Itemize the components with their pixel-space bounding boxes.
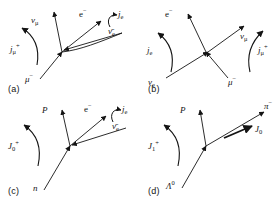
label-neutron: n	[33, 184, 38, 193]
label-electron: e−	[79, 10, 87, 19]
line-proton-out	[200, 110, 206, 146]
panel-a: νμ e− je ν̄e μ− jμ+ (a)	[0, 0, 139, 100]
current-arc-J1	[164, 125, 179, 166]
current-arc-je	[158, 33, 172, 72]
panel-b: e− νμ νe μ− je jμ+ (b)	[140, 0, 279, 100]
line-lambda-in	[182, 146, 206, 188]
panel-d-lines	[140, 100, 279, 200]
line-numu-out	[208, 26, 244, 52]
label-proton: P	[42, 106, 48, 115]
current-arc-J0	[24, 125, 39, 166]
panel-tag-d: (d)	[148, 186, 160, 196]
line-muon-in	[40, 52, 62, 79]
label-current-je: je	[118, 10, 123, 19]
label-current-J0: J0	[255, 125, 262, 134]
line-electron-out	[70, 116, 106, 146]
label-nu-mu: νμ	[240, 32, 248, 41]
panel-d: P π− J0 Λ0 J1+ (d)	[140, 100, 279, 200]
label-antineutrino-e: ν̄e	[112, 122, 119, 131]
label-current-je: je	[122, 105, 127, 114]
label-current-je: je	[147, 46, 152, 55]
label-muon: μ−	[228, 78, 236, 87]
label-pion: π−	[264, 102, 272, 111]
line-electron-out	[62, 21, 101, 52]
line-muon-in	[206, 52, 228, 78]
current-arrow-J0	[224, 126, 252, 138]
panel-c-lines	[0, 100, 139, 200]
label-current-J0: J0+	[8, 142, 19, 151]
panel-c: P e− je ν̄e n J0+ (c)	[0, 100, 139, 200]
figure-canvas: νμ e− je ν̄e μ− jμ+ (a)	[0, 0, 279, 200]
panel-tag-c: (c)	[8, 186, 19, 196]
current-arc-jmu	[22, 28, 38, 65]
label-antineutrino-e: ν̄e	[108, 27, 115, 36]
line-proton-out	[62, 110, 70, 146]
label-nu-mu: νμ	[31, 16, 39, 25]
label-current-jmu: jμ+	[258, 46, 268, 55]
label-current-J1: J1+	[148, 142, 159, 151]
label-electron: e−	[165, 10, 173, 19]
line-electron-out	[188, 14, 206, 52]
label-muon: μ−	[25, 75, 33, 84]
label-proton: P	[180, 106, 186, 115]
label-lambda: Λ0	[166, 182, 175, 191]
label-electron: e−	[84, 105, 92, 114]
panel-tag-a: (a)	[8, 84, 20, 94]
label-current-jmu: jμ+	[10, 45, 20, 54]
line-numu-out	[54, 12, 62, 52]
line-neutron-in	[44, 146, 70, 190]
panel-tag-b: (b)	[148, 84, 160, 94]
